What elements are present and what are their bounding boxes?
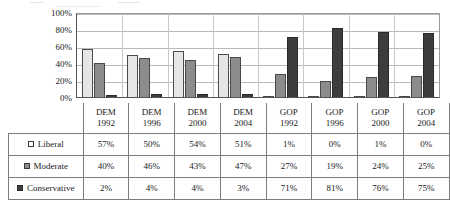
bar (230, 57, 241, 97)
bar-series-container (77, 14, 439, 97)
plot-area (76, 13, 440, 98)
column-header-year: 1996 (312, 118, 357, 129)
legend-swatch-icon (28, 141, 34, 147)
y-axis-tick-label: 80% (28, 26, 72, 35)
bar (173, 51, 184, 97)
table-cell: 0% (403, 134, 449, 156)
y-axis-tick-label: 0% (28, 94, 72, 103)
y-axis: 100%80%60%40%20%0% (28, 0, 72, 103)
bar-group (394, 14, 439, 97)
bar (263, 96, 274, 97)
column-header-year: 2004 (221, 118, 266, 129)
bar (287, 37, 298, 97)
bar-chart-with-data-table: 100%80%60%40%20%0% DEM1992DEM1996DEM2000… (0, 0, 448, 198)
y-axis-tick-label: 100% (28, 9, 72, 18)
bar-group (349, 14, 394, 97)
table-cell: 54% (175, 134, 221, 156)
table-row: Conservative2%4%4%3%71%81%76%75% (9, 178, 450, 200)
table-cell: 1% (266, 134, 312, 156)
legend-swatch-icon (17, 185, 23, 191)
table-cell: 4% (129, 178, 175, 200)
column-header-party: DEM (175, 107, 220, 118)
bar (82, 49, 93, 97)
bar (423, 33, 434, 97)
table-cell: 75% (403, 178, 449, 200)
bar (218, 54, 229, 97)
legend-label: Liberal (38, 139, 64, 149)
bar (139, 58, 150, 97)
table-cell: 50% (129, 134, 175, 156)
column-header-party: GOP (267, 107, 312, 118)
bar (320, 81, 331, 97)
column-header-party: GOP (312, 107, 357, 118)
bar-group (303, 14, 348, 97)
column-header-party: DEM (221, 107, 266, 118)
table-cell: 81% (312, 178, 358, 200)
table-cell: 27% (266, 156, 312, 178)
bar (378, 32, 389, 97)
chart-region: 100%80%60%40%20%0% (0, 0, 448, 103)
table-row: Moderate40%46%43%47%27%19%24%25% (9, 156, 450, 178)
table-column-header: DEM2000 (175, 103, 221, 134)
table-column-header: GOP2000 (358, 103, 404, 134)
table-cell: 24% (358, 156, 404, 178)
bar (366, 77, 377, 97)
bar (275, 74, 286, 97)
table-column-header: GOP1996 (312, 103, 358, 134)
legend-row-header: Conservative (9, 178, 84, 200)
table-cell: 4% (175, 178, 221, 200)
table-cell: 19% (312, 156, 358, 178)
table-column-header: GOP2004 (403, 103, 449, 134)
table-cell: 43% (175, 156, 221, 178)
table-cell: 2% (83, 178, 129, 200)
legend-row-header: Liberal (9, 134, 84, 156)
bar (332, 28, 343, 97)
bar (185, 60, 196, 97)
table-corner-cell (9, 103, 84, 134)
bar-group (168, 14, 213, 97)
bar-group (122, 14, 167, 97)
table-body: Liberal57%50%54%51%1%0%1%0%Moderate40%46… (9, 134, 450, 200)
bar (106, 95, 117, 97)
table-header-row: DEM1992DEM1996DEM2000DEM2004GOP1992GOP19… (9, 103, 450, 134)
legend-swatch-icon (24, 163, 30, 169)
table-cell: 76% (358, 178, 404, 200)
table-cell: 0% (312, 134, 358, 156)
column-header-party: DEM (129, 107, 174, 118)
y-axis-tick-label: 60% (28, 43, 72, 52)
column-header-party: DEM (84, 107, 129, 118)
column-header-party: GOP (358, 107, 403, 118)
legend-row-header: Moderate (9, 156, 84, 178)
column-header-year: 2000 (358, 118, 403, 129)
column-header-year: 1992 (267, 118, 312, 129)
y-axis-tick-label: 40% (28, 60, 72, 69)
bar (127, 55, 138, 98)
table-cell: 57% (83, 134, 129, 156)
table-cell: 3% (220, 178, 266, 200)
bar-group (77, 14, 122, 97)
bar (242, 94, 253, 97)
table-header: DEM1992DEM1996DEM2000DEM2004GOP1992GOP19… (9, 103, 450, 134)
table-cell: 47% (220, 156, 266, 178)
table-cell: 25% (403, 156, 449, 178)
bar-group (213, 14, 258, 97)
table-cell: 46% (129, 156, 175, 178)
bar (354, 96, 365, 97)
table-column-header: DEM1992 (83, 103, 129, 134)
column-header-year: 2000 (175, 118, 220, 129)
bar (151, 94, 162, 97)
y-axis-tick-label: 20% (28, 77, 72, 86)
table-column-header: DEM2004 (220, 103, 266, 134)
table-cell: 71% (266, 178, 312, 200)
table-cell: 51% (220, 134, 266, 156)
data-table: DEM1992DEM1996DEM2000DEM2004GOP1992GOP19… (8, 103, 450, 200)
cropped-title-artifact (118, 2, 140, 3)
table-column-header: DEM1996 (129, 103, 175, 134)
column-header-year: 2004 (404, 118, 449, 129)
column-header-party: GOP (404, 107, 449, 118)
bar (399, 96, 410, 97)
column-header-year: 1996 (129, 118, 174, 129)
bar-group (258, 14, 303, 97)
table-cell: 40% (83, 156, 129, 178)
bar (308, 96, 319, 97)
